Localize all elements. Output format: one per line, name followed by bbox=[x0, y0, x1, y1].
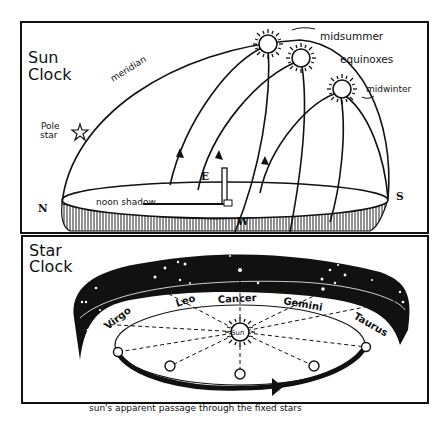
star-clock-caption: sun's apparent passage through the fixed… bbox=[89, 403, 302, 413]
star-clock-panel: Star Clock bbox=[22, 236, 428, 413]
gnomon bbox=[222, 168, 227, 204]
earth-position bbox=[235, 369, 245, 379]
star-clock-title-2: Clock bbox=[29, 257, 73, 276]
earth-position bbox=[165, 361, 175, 371]
center-sun-label: Sun bbox=[231, 329, 244, 337]
sun-star-clock-diagram: Sun Clock midsummer equinoxes midwinter bbox=[0, 0, 444, 445]
equinoxes-label: equinoxes bbox=[340, 53, 393, 65]
earth-position bbox=[114, 348, 123, 357]
pole-star-label-2: star bbox=[40, 130, 58, 140]
compass-east: E bbox=[201, 170, 209, 182]
noon-shadow-label: noon shadow bbox=[96, 197, 156, 207]
gnomon-base bbox=[224, 200, 232, 206]
earth-position bbox=[362, 343, 371, 352]
sun-clock-panel: Sun Clock midsummer equinoxes midwinter bbox=[21, 22, 428, 233]
zodiac-cancer: Cancer bbox=[218, 292, 257, 305]
sun-clock-title-2: Clock bbox=[28, 65, 72, 84]
midsummer-label: midsummer bbox=[320, 30, 384, 42]
earth-position bbox=[309, 361, 319, 371]
compass-south: S bbox=[396, 190, 404, 202]
midwinter-label: midwinter bbox=[366, 84, 412, 94]
compass-west: W bbox=[236, 215, 249, 227]
compass-north: N bbox=[38, 202, 48, 214]
